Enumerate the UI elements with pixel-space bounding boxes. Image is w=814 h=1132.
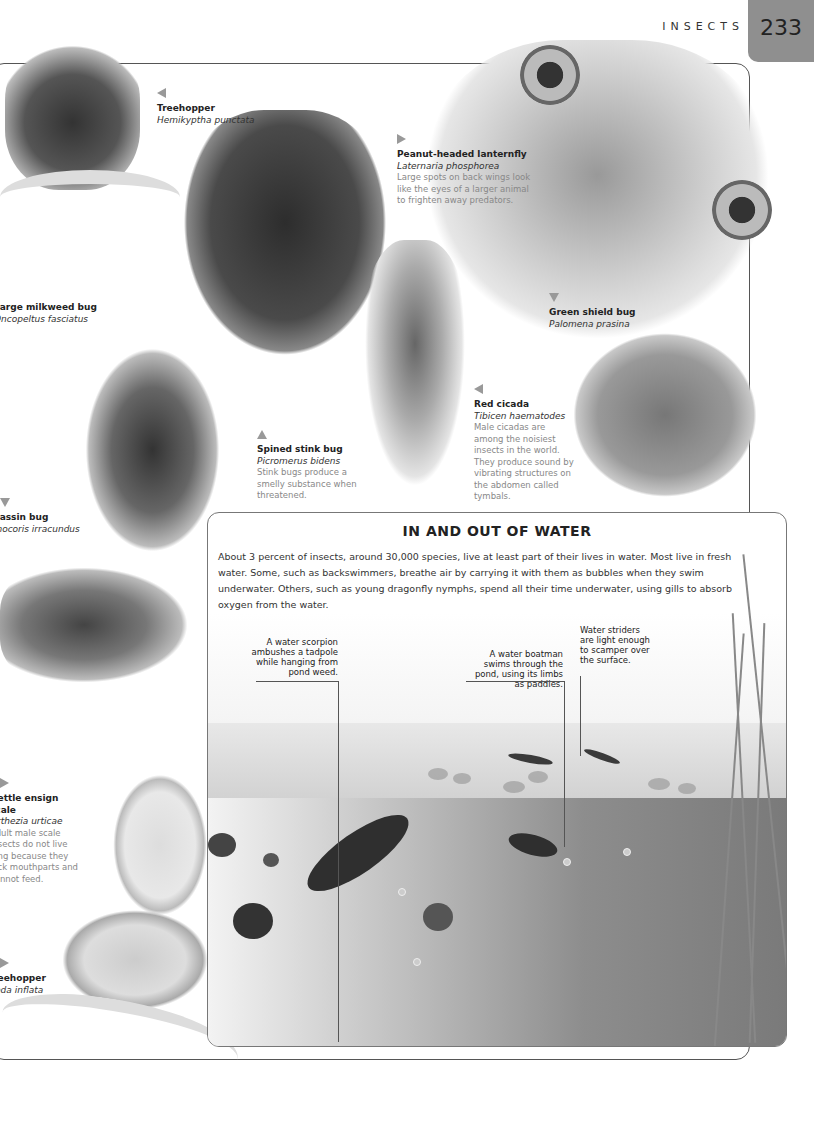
arrow-down-icon	[0, 498, 10, 507]
eyespot-icon	[712, 180, 772, 240]
leader-line	[580, 676, 581, 756]
section-title: INSECTS	[662, 20, 744, 33]
species-label-green-shield-bug: Green shield bug Palomena prasina	[549, 293, 659, 330]
feature-panel-water: IN AND OUT OF WATER About 3 percent of i…	[207, 512, 787, 1047]
arrow-down-icon	[549, 293, 559, 302]
nettle-ensign-scale-illustration	[110, 770, 210, 920]
eyespot-icon	[520, 45, 580, 105]
arrow-right-icon	[0, 958, 9, 968]
species-label-treehopper: Treehopper Hemikyptha punctata	[157, 88, 277, 126]
species-label-nettle-ensign-scale: Nettle ensign scale Orthezia urticae Adu…	[0, 778, 85, 885]
spined-stink-bug-illustration	[180, 110, 390, 360]
leader-line	[256, 681, 339, 1042]
panel-title: IN AND OUT OF WATER	[208, 523, 786, 539]
species-label-treehopper-oeda: Treehopper Oeda inflata	[0, 958, 78, 996]
arrow-left-icon	[157, 88, 166, 98]
species-label-assassin-bug: Assassin bug Rhinocoris irracundus	[0, 498, 102, 535]
green-shield-bug-illustration	[570, 330, 760, 500]
species-label-lanternfly: Peanut-headed lanternfly Laternaria phos…	[397, 134, 532, 207]
arrow-up-icon	[257, 430, 267, 439]
treehopper-illustration	[5, 40, 140, 190]
panel-body: About 3 percent of insects, around 30,00…	[218, 549, 756, 613]
page-number: 233	[748, 15, 814, 40]
arrow-right-icon	[397, 134, 406, 144]
tadpole-icon	[208, 833, 236, 857]
branch-illustration	[0, 170, 180, 224]
callout-water-scorpion: A water scorpion ambushes a tadpole whil…	[248, 637, 338, 677]
species-label-red-cicada: Red cicada Tibicen haematodes Male cicad…	[474, 384, 574, 503]
species-label-milkweed-bug: Large milkweed bug Oncopeltus fasciatus	[0, 302, 114, 325]
assassin-bug-illustration	[0, 555, 210, 695]
page-number-tab: 233	[748, 0, 814, 62]
species-label-spined-stink-bug: Spined stink bug Picromerus bidens Stink…	[257, 430, 367, 502]
red-cicada-illustration	[360, 240, 470, 500]
callout-water-striders: Water striders are light enough to scamp…	[580, 625, 655, 665]
arrow-right-icon	[0, 778, 9, 788]
leader-line	[466, 681, 565, 847]
tadpole-icon	[423, 903, 453, 931]
arrow-left-icon	[474, 384, 483, 394]
